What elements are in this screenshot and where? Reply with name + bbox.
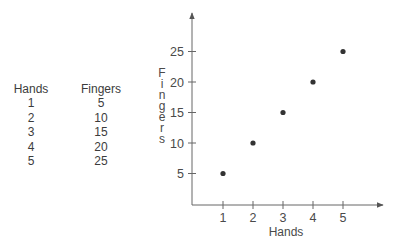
y-axis-label: Fingers bbox=[158, 66, 165, 146]
y-tick-labels: 5 10 15 20 25 bbox=[170, 45, 184, 181]
x-tick-labels: 1 2 3 4 5 bbox=[220, 211, 347, 225]
svg-text:15: 15 bbox=[170, 106, 184, 120]
data-point bbox=[280, 110, 285, 115]
svg-text:s: s bbox=[159, 132, 165, 146]
svg-text:4: 4 bbox=[310, 211, 317, 225]
svg-text:20: 20 bbox=[170, 76, 184, 90]
data-point bbox=[220, 171, 225, 176]
data-point bbox=[250, 140, 255, 145]
data-point bbox=[310, 79, 315, 84]
data-points bbox=[220, 49, 345, 176]
svg-text:25: 25 bbox=[170, 45, 184, 59]
data-point bbox=[340, 49, 345, 54]
svg-text:1: 1 bbox=[220, 211, 227, 225]
svg-text:5: 5 bbox=[177, 167, 184, 181]
svg-text:2: 2 bbox=[250, 211, 257, 225]
svg-text:3: 3 bbox=[280, 211, 287, 225]
scatter-chart: 5 10 15 20 25 1 2 3 4 5 Hands Fingers bbox=[0, 0, 396, 251]
svg-text:5: 5 bbox=[340, 211, 347, 225]
x-axis-label: Hands bbox=[269, 225, 304, 239]
svg-text:10: 10 bbox=[170, 137, 184, 151]
